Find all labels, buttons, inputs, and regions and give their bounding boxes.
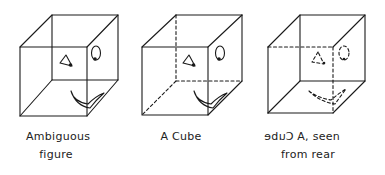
caption-ambiguous-line2: figure [26,148,86,161]
caption-rear-line1: Cube A, seen [258,130,346,143]
ambiguous-cube [20,15,118,116]
mirrored-word: Cube [264,130,294,143]
face-icon [60,46,104,108]
caption-rear-rest: A, seen [297,130,340,143]
face-icon [309,46,349,104]
rear-view-cube [268,15,365,113]
caption-ambiguous-line1: Ambiguous [26,130,86,143]
caption-rear-line2: from rear [268,148,348,161]
caption-a-cube: A Cube [150,130,212,143]
front-view-cube [142,15,242,115]
face-icon [183,46,227,108]
